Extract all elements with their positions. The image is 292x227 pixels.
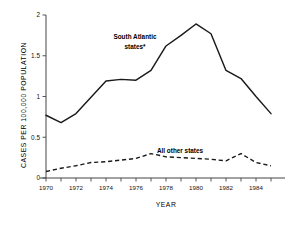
- chart-figure: CASES PER 100,000 POPULATION 0 0.5 1 1.5…: [0, 0, 292, 227]
- y-axis-title: CASES PER 100,000 POPULATION: [20, 42, 27, 168]
- y-tick-label: 0.5: [31, 134, 40, 141]
- x-axis-title: YEAR: [156, 201, 177, 208]
- series-label-south-atlantic-line1: South Atlantic: [113, 33, 157, 40]
- x-tick-label: 1972: [69, 184, 83, 191]
- series-label-south-atlantic-line2: states*: [125, 43, 146, 50]
- x-tick-marks: [46, 178, 271, 182]
- y-tick-label: 2: [36, 11, 40, 18]
- y-tick-label: 1.5: [31, 52, 40, 59]
- x-tick-labels: 19701972197419761978198019821984: [39, 184, 263, 191]
- series-label-all-other-states: All other states: [157, 147, 204, 154]
- series-line-south-atlantic: [46, 24, 271, 123]
- x-tick-label: 1970: [39, 184, 53, 191]
- series-line-all-other-states: [46, 154, 271, 172]
- x-tick-label: 1976: [129, 184, 143, 191]
- y-tick-labels: 0 0.5 1 1.5 2: [31, 11, 40, 181]
- line-chart: CASES PER 100,000 POPULATION 0 0.5 1 1.5…: [0, 0, 292, 227]
- x-tick-label: 1982: [219, 184, 233, 191]
- x-tick-label: 1980: [189, 184, 203, 191]
- x-tick-label: 1984: [249, 184, 263, 191]
- y-tick-label: 1: [36, 93, 40, 100]
- x-tick-label: 1978: [159, 184, 173, 191]
- y-tick-label: 0: [36, 174, 40, 181]
- y-tick-marks: [43, 15, 47, 178]
- x-tick-label: 1974: [99, 184, 113, 191]
